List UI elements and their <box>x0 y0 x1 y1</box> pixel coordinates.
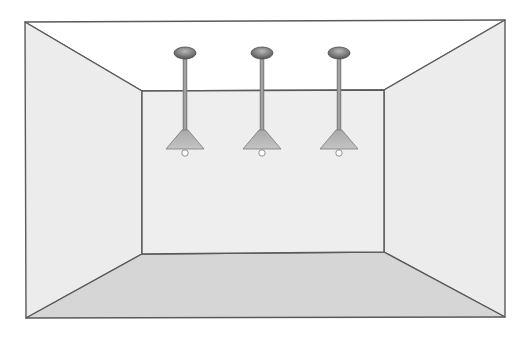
ceiling-canopy-icon <box>328 47 350 59</box>
lamp-rod <box>183 56 187 132</box>
light-bulb-icon <box>259 150 265 156</box>
ceiling-canopy-icon <box>174 47 196 59</box>
room-diagram <box>0 0 526 344</box>
lamp-rod <box>337 56 341 132</box>
room-illustration <box>0 0 526 344</box>
ceiling-canopy-icon <box>251 47 273 59</box>
lamp-rod <box>260 56 264 132</box>
light-bulb-icon <box>336 150 342 156</box>
light-bulb-icon <box>182 150 188 156</box>
